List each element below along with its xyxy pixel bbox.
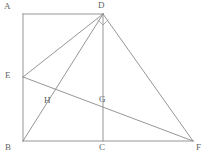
segment-ef — [23, 77, 193, 141]
geometry-figure: ADEHGBCF — [0, 0, 208, 156]
vertex-label-e: E — [5, 71, 11, 80]
vertex-label-c: C — [99, 143, 105, 152]
segment-db — [23, 14, 103, 141]
segment-df — [103, 14, 193, 141]
vertex-label-a: A — [4, 2, 11, 11]
vertex-label-b: B — [5, 143, 11, 152]
vertex-label-g: G — [99, 95, 106, 104]
segments-group — [23, 14, 193, 141]
figure-canvas — [0, 0, 208, 156]
vertex-label-h: H — [44, 96, 51, 105]
segment-de — [23, 14, 103, 77]
vertex-label-f: F — [196, 143, 201, 152]
vertex-label-d: D — [98, 1, 105, 10]
